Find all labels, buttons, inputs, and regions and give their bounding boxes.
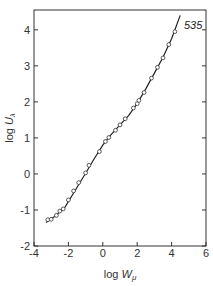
data-point	[84, 171, 88, 175]
y-tick-labels: -2-101234	[20, 24, 30, 252]
data-point	[87, 163, 91, 167]
data-point	[55, 214, 59, 218]
curve-label: 535	[184, 19, 203, 31]
x-axis-label: log Wμ	[104, 268, 137, 282]
data-point	[77, 181, 81, 185]
x-tick-label: -2	[64, 247, 74, 259]
data-point	[61, 207, 65, 211]
x-tick-label: 2	[134, 247, 140, 259]
y-tick-label: -2	[20, 240, 30, 252]
data-point	[98, 150, 102, 154]
data-point	[161, 56, 165, 60]
y-tick-label: -1	[20, 204, 30, 216]
x-tick-label: 4	[169, 247, 175, 259]
data-point	[156, 65, 160, 69]
data-point	[67, 198, 71, 202]
x-tick-label: 6	[203, 247, 209, 259]
data-point	[173, 30, 177, 34]
data-point	[167, 43, 171, 47]
chart: -4-20246 -2-101234 535 log Wμ log Uλ	[0, 0, 213, 286]
y-tick-label: 2	[24, 96, 30, 108]
x-tick-labels: -4-20246	[29, 247, 209, 259]
y-axis-label: log Uλ	[3, 113, 17, 143]
data-point	[137, 99, 141, 103]
data-point	[72, 189, 76, 193]
data-point	[150, 76, 154, 80]
data-point	[142, 91, 146, 95]
y-tick-label: 0	[24, 168, 30, 180]
data-point	[104, 140, 108, 144]
x-tick-label: -4	[29, 247, 39, 259]
data-point	[114, 128, 118, 132]
data-markers	[46, 30, 177, 222]
y-tick-label: 4	[24, 24, 30, 36]
data-point	[49, 217, 53, 221]
data-point	[118, 123, 122, 127]
y-tick-label: 3	[24, 60, 30, 72]
data-point	[107, 136, 111, 140]
data-point	[123, 117, 127, 121]
y-tick-label: 1	[24, 132, 30, 144]
fit-curve	[46, 15, 180, 222]
axis-ticks	[34, 30, 206, 246]
data-point	[132, 106, 136, 110]
x-tick-label: 0	[100, 247, 106, 259]
